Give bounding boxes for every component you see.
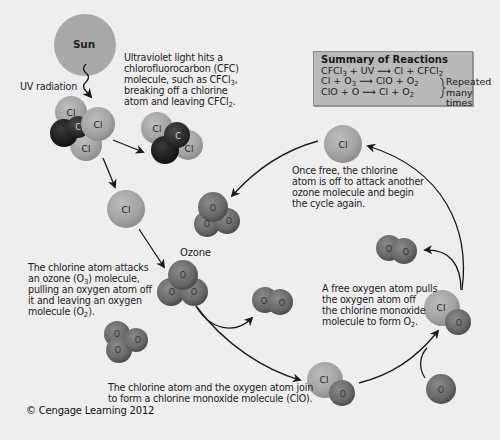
ozone-molecule-cycle: O O O — [194, 192, 240, 237]
svg-text:Cl: Cl — [320, 375, 329, 385]
caption-text: . — [233, 96, 236, 107]
repeated-note: Repeated many times — [446, 77, 491, 109]
caption-line: atom and leaving CFCl2. — [124, 96, 239, 107]
caption-line: an ozone (O3) molecule, — [28, 273, 152, 284]
svg-text:O: O — [438, 386, 444, 395]
caption-line: ozone molecule and begin — [292, 187, 424, 198]
cfcl3-molecule: Cl C Cl Cl — [50, 96, 115, 161]
caption-line: The chlorine atom attacks — [28, 262, 152, 273]
caption-text: . — [415, 316, 418, 327]
caption-line: molecule (O2). — [28, 306, 152, 317]
caption-text: molecule, such as CFCl — [124, 74, 230, 85]
svg-text:Cl: Cl — [122, 205, 131, 215]
caption-line: breaking off a chlorine — [124, 85, 239, 96]
free-oxygen-caption: A free oxygen atom pulls the oxygen atom… — [322, 283, 437, 327]
cfc-caption: Ultraviolet light hits a chlorofluorocar… — [124, 52, 239, 107]
svg-text:O: O — [210, 204, 216, 213]
ozone-molecule: O O O — [157, 260, 208, 306]
caption-text: atom and leaving CFCl — [124, 96, 228, 107]
svg-text:Cl: Cl — [437, 303, 446, 313]
reaction-text: ClO + O — [321, 86, 362, 97]
caption-text: molecule to form O — [322, 316, 411, 327]
caption-text: ) molecule, — [88, 273, 139, 284]
attack-caption: The chlorine atom attacks an ozone (O3) … — [28, 262, 152, 317]
reaction-arrow-icon: ⟶ — [362, 86, 376, 97]
caption-line: it and leaving an oxygen — [28, 295, 152, 306]
svg-text:O: O — [135, 336, 141, 345]
sun-label: Sun — [73, 39, 95, 50]
svg-text:O: O — [180, 271, 186, 280]
reaction-text: Cl + O — [321, 75, 352, 86]
brace-icon — [439, 77, 445, 99]
note-line: Repeated — [446, 77, 491, 88]
free-chlorine-atom-cycle: Cl — [324, 125, 362, 163]
caption-text: , — [235, 74, 238, 85]
svg-text:Cl: Cl — [94, 120, 103, 130]
svg-text:Cl: Cl — [153, 124, 162, 134]
copyright-notice: © Cengage Learning 2012 — [26, 405, 154, 416]
join-caption: The chlorine atom and the oxygen atom jo… — [108, 382, 313, 404]
free-chlorine-atom: Cl — [107, 190, 145, 228]
svg-text:C: C — [175, 132, 181, 141]
caption-line: molecule to form O2. — [322, 316, 437, 327]
caption-line: the chlorine monoxide — [322, 305, 437, 316]
caption-line: the oxygen atom off — [322, 294, 437, 305]
svg-text:O: O — [261, 297, 267, 306]
caption-line: A free oxygen atom pulls — [322, 283, 437, 294]
ozone-depletion-diagram: Cl C Cl Cl Cl C Cl Cl — [0, 0, 500, 440]
svg-text:O: O — [191, 288, 197, 297]
oxygen-molecule-o2: O O — [252, 287, 293, 315]
reaction-text: CFCl — [321, 65, 342, 76]
caption-text: molecule (O — [28, 306, 84, 317]
caption-line: to form a chlorine monoxide molecule (Cl… — [108, 393, 313, 404]
svg-text:O: O — [204, 220, 210, 229]
reaction-text: Cl + O — [376, 86, 410, 97]
caption-line: pulling an oxygen atom off — [28, 284, 152, 295]
svg-text:O: O — [114, 330, 120, 339]
cfcl2-molecule: Cl C Cl — [141, 112, 203, 164]
summary-of-reactions-box: Summary of Reactions CFCl3 + UV ⟶ Cl + C… — [313, 51, 473, 106]
subscript: 2 — [414, 80, 418, 88]
caption-line: atom is off to attack another — [292, 176, 424, 187]
svg-text:O: O — [169, 288, 175, 297]
svg-text:O: O — [279, 299, 285, 308]
oxygen-molecule-leftover: O O O — [104, 321, 148, 363]
uv-radiation-label: UV radiation — [20, 81, 77, 92]
svg-text:O: O — [340, 390, 346, 399]
free-oxygen-atom: O — [426, 374, 456, 404]
caption-text: ). — [88, 306, 94, 317]
caption-line: Ultraviolet light hits a — [124, 52, 239, 63]
ozone-label: Ozone — [180, 247, 211, 258]
svg-text:Cl: Cl — [185, 144, 194, 154]
caption-text: an ozone (O — [28, 273, 84, 284]
subscript: 2 — [410, 91, 414, 99]
caption-line: The chlorine atom and the oxygen atom jo… — [108, 382, 313, 393]
reaction-arrow-icon: ⟶ — [359, 75, 373, 86]
chlorine-monoxide-molecule: Cl O — [307, 362, 355, 406]
svg-text:O: O — [226, 217, 232, 226]
cycle-caption: Once free, the chlorine atom is off to a… — [292, 165, 424, 209]
caption-line: chlorofluorocarbon (CFC) — [124, 63, 239, 74]
caption-line: Once free, the chlorine — [292, 165, 424, 176]
caption-line: molecule, such as CFCl3, — [124, 74, 239, 85]
reaction-text: + UV — [347, 65, 377, 76]
caption-line: the cycle again. — [292, 198, 424, 209]
svg-text:Cl: Cl — [67, 108, 76, 118]
svg-text:O: O — [403, 248, 409, 257]
reaction-text: Cl + CFCl — [391, 65, 439, 76]
svg-text:O: O — [386, 245, 392, 254]
svg-text:C: C — [75, 123, 81, 132]
oxygen-molecule-formed: O O — [376, 235, 417, 264]
svg-text:O: O — [456, 319, 462, 328]
svg-text:Cl: Cl — [82, 144, 91, 154]
reaction-arrow-icon: ⟶ — [377, 65, 391, 76]
note-line: many times — [446, 88, 491, 109]
svg-text:O: O — [115, 346, 121, 355]
svg-text:Cl: Cl — [339, 140, 348, 150]
reaction-text: ClO + O — [373, 75, 414, 86]
